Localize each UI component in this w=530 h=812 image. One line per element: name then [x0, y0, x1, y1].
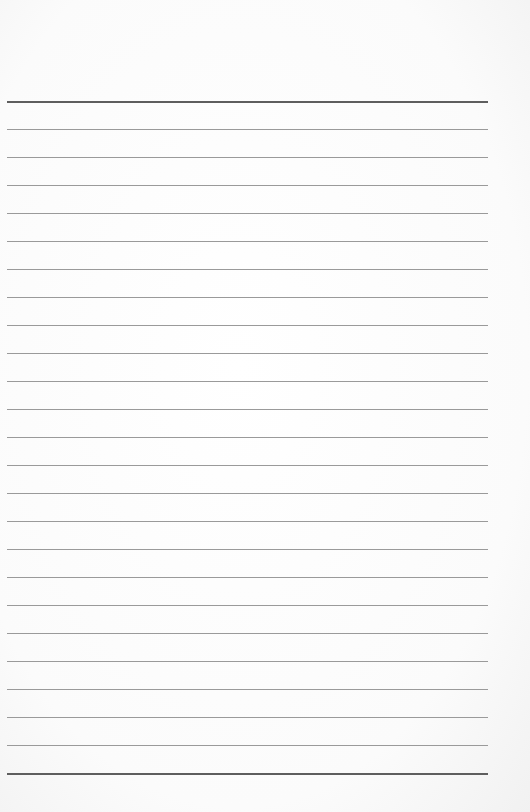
ruled-line	[7, 297, 488, 298]
ruled-line	[7, 157, 488, 158]
ruled-line	[7, 241, 488, 242]
ruled-line	[7, 605, 488, 606]
ruled-line	[7, 577, 488, 578]
ruled-line	[7, 465, 488, 466]
ruled-line	[7, 269, 488, 270]
ruled-line	[7, 381, 488, 382]
ruled-line	[7, 493, 488, 494]
ruled-line	[7, 633, 488, 634]
ruled-line	[7, 549, 488, 550]
ruled-line	[7, 745, 488, 746]
ruled-line	[7, 437, 488, 438]
ruled-line	[7, 773, 488, 775]
ruled-line	[7, 129, 488, 130]
ruled-line	[7, 689, 488, 690]
ruled-line	[7, 521, 488, 522]
ruled-line	[7, 325, 488, 326]
ruled-line	[7, 661, 488, 662]
ruled-line	[7, 213, 488, 214]
ruled-line	[7, 101, 488, 103]
ruled-line	[7, 185, 488, 186]
ruled-line	[7, 409, 488, 410]
ruled-line	[7, 353, 488, 354]
lined-paper-sheet	[0, 0, 530, 812]
ruled-line	[7, 717, 488, 718]
